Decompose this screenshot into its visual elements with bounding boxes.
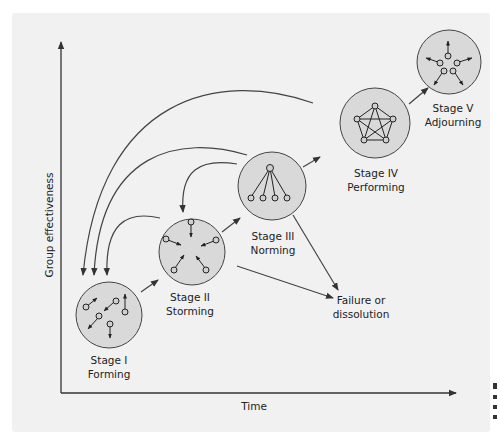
- stage-5-name: Adjourning: [425, 116, 482, 128]
- arrow-stage4-to-stage5: [409, 88, 428, 104]
- page-edge-mark: [493, 405, 497, 409]
- stage-3-circle: [238, 152, 306, 220]
- stage-1-node: Stage I Forming: [76, 282, 142, 380]
- page-edge-mark: [493, 415, 497, 419]
- stage-1-title: Stage I: [91, 354, 128, 366]
- arrow-stage2-to-stage3: [222, 218, 240, 232]
- stage-2-name: Storming: [166, 305, 214, 317]
- failure-outcome: Failure or dissolution: [333, 294, 390, 320]
- page-edge-mark: [493, 383, 497, 389]
- y-axis-label: Group effectiveness: [43, 173, 55, 278]
- team-stages-diagram: Time Group effectiveness St: [0, 0, 500, 440]
- stage-5-circle: [417, 30, 481, 94]
- x-axis-label: Time: [240, 400, 267, 412]
- stage-2-circle: [159, 219, 225, 285]
- arrow-stage3-to-stage2: [183, 163, 237, 212]
- page-edge-mark: [493, 395, 497, 399]
- arrow-stage2-to-failure: [237, 266, 333, 298]
- stage-2-node: Stage II Storming: [159, 219, 225, 317]
- stage-1-name: Forming: [88, 368, 131, 380]
- failure-line2: dissolution: [333, 308, 390, 320]
- stage-3-node: Stage III Norming: [238, 152, 306, 256]
- stage-4-node: Stage IV Performing: [340, 88, 410, 193]
- arrow-stage3-to-stage4: [303, 157, 320, 167]
- stage-4-circle: [340, 88, 410, 158]
- stage-2-title: Stage II: [170, 291, 210, 303]
- stage-3-name: Norming: [251, 244, 296, 256]
- stage-4-name: Performing: [347, 181, 404, 193]
- stage-3-title: Stage III: [252, 230, 295, 242]
- arrow-stage1-to-stage2: [141, 280, 158, 292]
- stage-1-circle: [76, 282, 142, 348]
- stage-5-title: Stage V: [433, 102, 475, 114]
- stage-4-title: Stage IV: [354, 167, 399, 179]
- stage-5-node: Stage V Adjourning: [417, 30, 481, 128]
- arrow-stage3-to-failure: [293, 215, 338, 290]
- failure-line1: Failure or: [337, 294, 386, 306]
- arrow-stage2-to-stage1: [107, 216, 160, 275]
